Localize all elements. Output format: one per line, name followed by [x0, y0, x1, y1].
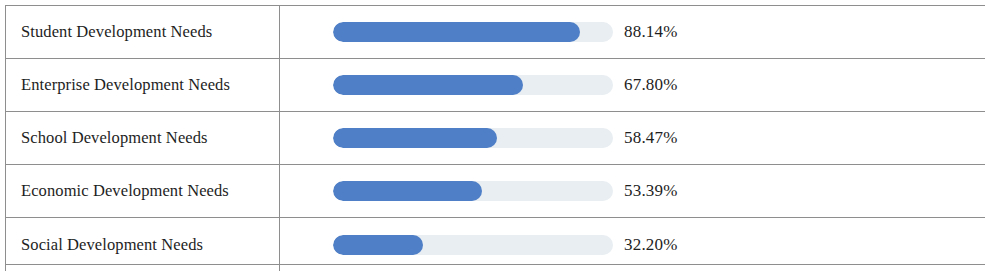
needs-percentage-value: 53.39%: [624, 181, 678, 201]
progress-bar-track: [333, 235, 613, 255]
table-left-rule: [5, 59, 6, 111]
table-row: Enterprise Development Needs67.80%: [5, 59, 985, 112]
needs-bar-cell: 88.14%: [279, 22, 985, 42]
needs-category-label: Enterprise Development Needs: [5, 75, 279, 95]
progress-bar-fill: [333, 235, 423, 255]
needs-percentage-value: 67.80%: [624, 75, 678, 95]
table-column-divider: [279, 165, 280, 217]
needs-bar-cell: 58.47%: [279, 128, 985, 148]
needs-category-label: Economic Development Needs: [5, 181, 279, 201]
progress-bar-track: [333, 181, 613, 201]
needs-percentage-value: 32.20%: [624, 235, 678, 255]
table-column-divider: [279, 112, 280, 164]
needs-bar-cell: 32.20%: [279, 235, 985, 255]
table-row: Economic Development Needs53.39%: [5, 165, 985, 218]
progress-bar-track: [333, 128, 613, 148]
needs-bar-cell: 53.39%: [279, 181, 985, 201]
progress-bar-track: [333, 22, 613, 42]
needs-category-label: Student Development Needs: [5, 22, 279, 42]
progress-bar-fill: [333, 128, 497, 148]
needs-category-label: Social Development Needs: [5, 235, 279, 255]
needs-percentage-value: 88.14%: [624, 22, 678, 42]
progress-bar-track: [333, 75, 613, 95]
progress-bar-fill: [333, 75, 523, 95]
table-left-rule: [5, 165, 6, 217]
table-left-rule: [5, 112, 6, 164]
development-needs-table: Student Development Needs88.14%Enterpris…: [5, 5, 985, 265]
table-left-rule: [5, 6, 6, 58]
table-row: Student Development Needs88.14%: [5, 6, 985, 59]
progress-bar-fill: [333, 181, 482, 201]
needs-bar-cell: 67.80%: [279, 75, 985, 95]
table-row: School Development Needs58.47%: [5, 112, 985, 165]
needs-percentage-value: 58.47%: [624, 128, 678, 148]
table-left-rule: [5, 218, 6, 271]
progress-bar-fill: [333, 22, 580, 42]
needs-category-label: School Development Needs: [5, 128, 279, 148]
table-column-divider: [279, 6, 280, 58]
table-column-divider: [279, 218, 280, 271]
table-row: Social Development Needs32.20%: [5, 218, 985, 271]
table-column-divider: [279, 59, 280, 111]
